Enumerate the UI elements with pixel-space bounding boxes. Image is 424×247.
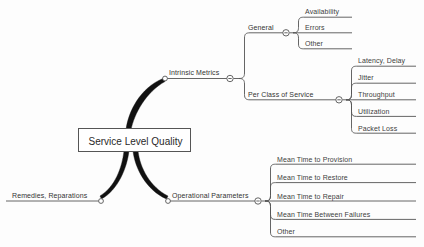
center-node[interactable]: Service Level Quality xyxy=(78,128,191,152)
leaf-label-mean-time-between-failures[interactable]: Mean Time Between Failures xyxy=(277,210,370,219)
bracket-intrinsic-metrics xyxy=(234,33,284,79)
trunk-intrinsic-metrics xyxy=(126,79,165,131)
trunk-operational-parameters xyxy=(133,151,168,199)
node-dot-operational-parameters xyxy=(166,199,171,204)
leaf-label-other-general[interactable]: Other xyxy=(305,39,323,48)
leaf-label-other-operational[interactable]: Other xyxy=(277,227,295,236)
leaf-label-mean-time-to-repair[interactable]: Mean Time to Repair xyxy=(277,192,344,201)
node-dot-remedies-reparations xyxy=(99,199,104,204)
mind-map-canvas: Service Level Quality Intrinsic Metrics … xyxy=(0,0,424,247)
branch-label-per-class-of-service[interactable]: Per Class of Service xyxy=(248,90,313,99)
leaf-label-throughput[interactable]: Throughput xyxy=(358,90,395,99)
node-dot-intrinsic-metrics xyxy=(163,76,168,81)
leaf-label-mean-time-to-provision[interactable]: Mean Time to Provision xyxy=(277,155,352,164)
branch-label-general[interactable]: General xyxy=(248,23,274,32)
trunk-remedies xyxy=(100,151,129,199)
branch-label-remedies-reparations[interactable]: Remedies, Reparations xyxy=(12,191,87,200)
leaf-label-errors[interactable]: Errors xyxy=(305,23,325,32)
leaf-label-availability[interactable]: Availability xyxy=(305,7,339,16)
center-node-label: Service Level Quality xyxy=(79,129,192,153)
branch-label-operational-parameters[interactable]: Operational Parameters xyxy=(172,191,249,200)
leaf-label-packet-loss[interactable]: Packet Loss xyxy=(358,124,397,133)
leaf-label-mean-time-to-restore[interactable]: Mean Time to Restore xyxy=(277,173,348,182)
branch-label-intrinsic-metrics[interactable]: Intrinsic Metrics xyxy=(169,68,219,77)
leaf-label-utilization[interactable]: Utilization xyxy=(358,107,389,116)
leaf-label-latency-delay[interactable]: Latency, Delay xyxy=(358,56,405,65)
leaf-label-jitter[interactable]: Jitter xyxy=(358,73,374,82)
